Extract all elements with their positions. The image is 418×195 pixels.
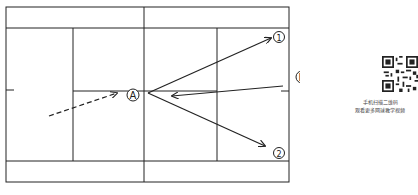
target-2-label: 2 <box>276 150 281 159</box>
target-1-marker: 1 <box>274 32 285 43</box>
target-2-marker: 2 <box>274 148 285 159</box>
shot-path-a-to-1 <box>148 38 271 93</box>
player-b-label: B <box>299 72 300 83</box>
qr-caption: 手机扫描二维码 观看更多网球教学视频 <box>342 98 418 114</box>
court-lines <box>6 7 289 182</box>
target-1-label: 1 <box>276 34 281 43</box>
shot-paths <box>49 38 283 146</box>
approach-path-dashed <box>49 93 117 116</box>
player-a-label: A <box>130 90 137 101</box>
qr-caption-line1: 手机扫描二维码 <box>342 98 418 106</box>
court-outline <box>6 7 289 182</box>
player-b-marker: B <box>296 71 300 83</box>
tennis-court-diagram: A B 1 2 <box>0 0 300 195</box>
qr-caption-line2: 观看更多网球教学视频 <box>342 106 418 114</box>
player-a-marker: A <box>127 89 139 101</box>
qr-code-image[interactable] <box>382 56 418 92</box>
shot-path-a-to-2 <box>148 93 265 146</box>
